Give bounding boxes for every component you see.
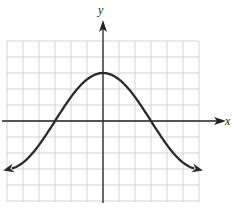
chart-canvas: [0, 0, 234, 209]
x-axis-label: x: [225, 114, 230, 129]
y-axis-label: y: [98, 3, 103, 18]
